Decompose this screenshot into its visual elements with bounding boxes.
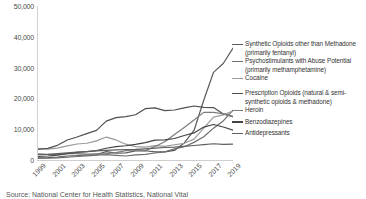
chart-container: 010,00020,00030,00040,00050,000 19992001… bbox=[0, 0, 366, 199]
series-line bbox=[38, 112, 233, 154]
legend-item[interactable]: Synthetic Opioids other than Methadone bbox=[232, 40, 366, 49]
y-axis-tick-label: 50,000 bbox=[14, 3, 34, 10]
legend-label: Prescription Opioids (natural & semi- bbox=[245, 89, 346, 98]
legend-label-continuation: synthetic opioids & methadone) bbox=[245, 98, 366, 107]
x-axis-tick-label: 2007 bbox=[109, 162, 125, 178]
x-axis: 1999200120032005200720092011201320152017… bbox=[38, 161, 233, 191]
legend-label-continuation: (primarily fentanyl) bbox=[245, 49, 366, 58]
legend-group: Benzodiazepines bbox=[232, 118, 366, 127]
legend-item[interactable]: Psychostimulants with Abuse Potential bbox=[232, 57, 366, 66]
legend-label: Cocaine bbox=[245, 74, 268, 83]
legend-item[interactable]: Antidepressants bbox=[232, 129, 366, 138]
legend-label-continuation: (primarily methamphetamine) bbox=[245, 66, 366, 75]
legend-group: Prescription Opioids (natural & semi-syn… bbox=[232, 89, 366, 115]
x-axis-tick-label: 2003 bbox=[70, 162, 86, 178]
y-axis-tick-label: 40,000 bbox=[14, 33, 34, 40]
legend-line-swatch bbox=[232, 78, 243, 79]
y-axis-tick-label: 10,000 bbox=[14, 126, 34, 133]
x-axis-tick-label: 2009 bbox=[128, 162, 144, 178]
legend-item[interactable]: Benzodiazepines bbox=[232, 118, 366, 127]
series-line bbox=[38, 111, 233, 149]
legend-line-swatch bbox=[232, 121, 243, 122]
legend-label: Antidepressants bbox=[245, 129, 290, 138]
legend-group: Antidepressants bbox=[232, 129, 366, 138]
legend-line-swatch bbox=[232, 133, 243, 134]
series-line bbox=[38, 48, 233, 158]
figure-caption: Source: National Center for Health Stati… bbox=[6, 191, 306, 198]
y-axis: 010,00020,00030,00040,00050,000 bbox=[0, 0, 34, 199]
legend-item[interactable]: Heroin bbox=[232, 106, 366, 115]
legend-line-swatch bbox=[232, 93, 243, 94]
legend-label: Synthetic Opioids other than Methadone bbox=[245, 40, 356, 49]
legend-line-swatch bbox=[232, 110, 243, 111]
chart-legend: Synthetic Opioids other than Methadone(p… bbox=[232, 40, 366, 138]
y-axis-tick-label: 0 bbox=[30, 157, 34, 164]
legend-item[interactable]: Prescription Opioids (natural & semi- bbox=[232, 89, 366, 98]
x-axis-tick-label: 2011 bbox=[148, 162, 164, 178]
y-axis-tick-label: 30,000 bbox=[14, 64, 34, 71]
y-axis-tick-label: 20,000 bbox=[14, 95, 34, 102]
legend-label: Psychostimulants with Abuse Potential bbox=[245, 57, 351, 66]
x-axis-tick-label: 2015 bbox=[187, 162, 203, 178]
x-axis-tick-label: 2019 bbox=[226, 162, 242, 178]
plot-area bbox=[38, 6, 233, 160]
x-axis-tick-label: 2013 bbox=[167, 162, 183, 178]
legend-line-swatch bbox=[232, 44, 243, 45]
legend-label: Benzodiazepines bbox=[245, 118, 292, 127]
x-axis-tick-label: 2001 bbox=[50, 162, 66, 178]
line-chart-svg bbox=[38, 6, 233, 160]
x-axis-tick-label: 2017 bbox=[206, 162, 222, 178]
legend-group: Synthetic Opioids other than Methadone(p… bbox=[232, 40, 366, 83]
x-axis-tick-label: 2005 bbox=[89, 162, 105, 178]
legend-line-swatch bbox=[232, 61, 243, 62]
legend-item[interactable]: Cocaine bbox=[232, 74, 366, 83]
legend-label: Heroin bbox=[245, 106, 263, 115]
